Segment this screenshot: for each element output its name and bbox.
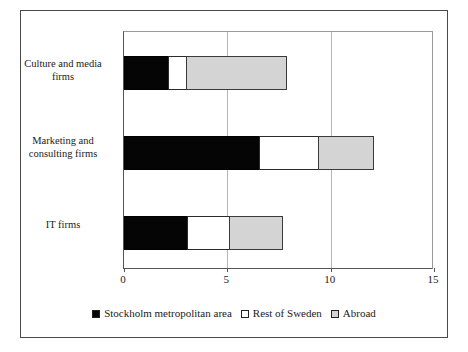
x-axis-label-5: 5 [206, 273, 246, 285]
category-label-line: Culture and media [11, 57, 115, 70]
bar-segment-abroad[interactable] [318, 136, 374, 170]
category-label-line: Marketing and [11, 134, 115, 147]
x-tick-10 [331, 268, 332, 272]
legend-swatch-icon [92, 310, 100, 318]
bar-segment-stockholm-metropolitan-area[interactable] [124, 136, 260, 170]
bar-culture-and-media-firms[interactable] [124, 56, 287, 90]
bar-segment-stockholm-metropolitan-area[interactable] [124, 216, 188, 250]
bar-segment-stockholm-metropolitan-area[interactable] [124, 56, 169, 90]
plot-area [123, 31, 433, 269]
bar-segment-rest-of-sweden[interactable] [168, 56, 187, 90]
bar-segment-abroad[interactable] [186, 56, 287, 90]
bar-marketing-and-consulting-firms[interactable] [124, 136, 374, 170]
x-tick-0 [124, 268, 125, 272]
chart-legend: Stockholm metropolitan area Rest of Swed… [21, 307, 447, 320]
category-label-culture-and-media-firms: Culture and media firms [11, 57, 115, 83]
legend-item-stockholm-metropolitan-area[interactable]: Stockholm metropolitan area [92, 307, 232, 320]
x-axis-label-15: 15 [413, 273, 453, 285]
x-axis-label-0: 0 [103, 273, 143, 285]
category-label-line: consulting firms [11, 147, 115, 160]
bar-segment-rest-of-sweden[interactable] [259, 136, 319, 170]
bar-segment-rest-of-sweden[interactable] [187, 216, 230, 250]
category-label-it-firms: IT firms [11, 218, 115, 231]
legend-label: Rest of Sweden [253, 307, 322, 320]
legend-label: Abroad [343, 307, 376, 320]
x-axis-label-10: 10 [310, 273, 350, 285]
category-label-line: firms [11, 70, 115, 83]
bar-segment-abroad[interactable] [229, 216, 283, 250]
bar-it-firms[interactable] [124, 216, 283, 250]
category-label-marketing-and-consulting-firms: Marketing and consulting firms [11, 134, 115, 160]
chart-frame: Culture and media firms Marketing and co… [20, 10, 448, 338]
x-tick-15 [434, 268, 435, 272]
x-tick-5 [227, 268, 228, 272]
legend-item-abroad[interactable]: Abroad [331, 307, 376, 320]
legend-label: Stockholm metropolitan area [104, 307, 232, 320]
legend-item-rest-of-sweden[interactable]: Rest of Sweden [241, 307, 322, 320]
category-label-line: IT firms [11, 218, 115, 231]
legend-swatch-icon [241, 310, 249, 318]
legend-swatch-icon [331, 310, 339, 318]
